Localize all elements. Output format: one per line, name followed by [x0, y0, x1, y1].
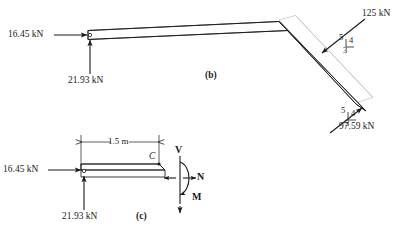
pin-support-c	[82, 169, 85, 172]
figure-canvas: 16.45 kN 21.93 kN 125 kN 5 4 3 97.59 kN …	[0, 0, 417, 235]
label-slope-upper-hyp: 5	[339, 33, 343, 42]
label-normal-n: N	[197, 172, 204, 182]
label-reaction-vertical-c: 21.93 kN	[62, 212, 97, 222]
segment-bar	[81, 164, 165, 170]
label-slope-upper-horiz: 3	[343, 46, 347, 55]
caption-c: (c)	[136, 212, 147, 222]
label-shear-v: V	[175, 145, 182, 155]
label-moment-m: M	[192, 192, 201, 202]
pin-support-b	[88, 33, 91, 36]
ghost-outline	[279, 16, 373, 103]
label-point-c: C	[149, 152, 155, 162]
label-load-125kn: 125 kN	[362, 9, 390, 19]
segment-member-c	[48, 135, 196, 213]
caption-b: (b)	[205, 71, 217, 81]
label-slope-lower-hyp: 5	[341, 106, 345, 115]
label-slope-lower-horiz: 3	[345, 119, 349, 128]
label-reaction-vertical-b: 21.93 kN	[68, 76, 103, 86]
label-slope-lower-vert: 4	[351, 109, 355, 118]
label-reaction-horizontal-c: 16.45 kN	[3, 165, 38, 175]
horizontal-member	[88, 22, 288, 40]
label-slope-upper-vert: 4	[349, 36, 353, 45]
label-reaction-horizontal-b: 16.45 kN	[8, 30, 43, 40]
label-dimension-1-5m: 1.5 m	[108, 137, 129, 146]
point-c-marker	[157, 162, 160, 165]
